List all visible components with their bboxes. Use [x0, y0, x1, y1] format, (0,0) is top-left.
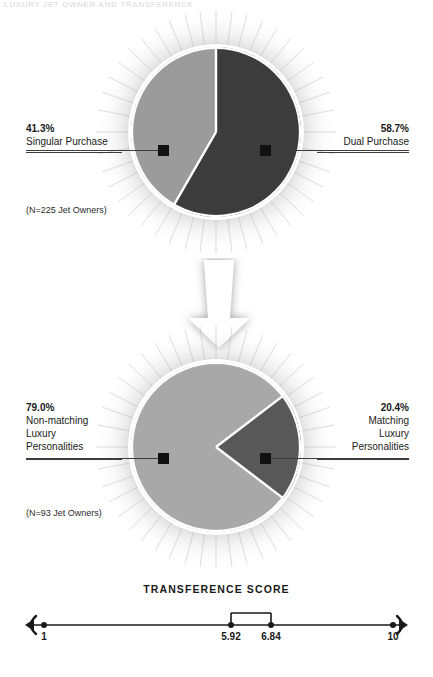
pie-2-left-label-line1: Non-matching [26, 414, 88, 427]
pie-1-left-underline [26, 152, 122, 153]
pie-2-right-underline [317, 459, 409, 460]
pie-1-right-percent: 58.7% [343, 122, 409, 135]
pie-1-right-underline [317, 152, 409, 153]
pie-2-slices [131, 362, 301, 532]
pie-1-callout-left: 41.3% Singular Purchase [26, 122, 108, 148]
pie-1-right-leader-line [270, 150, 409, 151]
pie-2-left-percent: 79.0% [26, 401, 88, 414]
pie-2-left-marker [158, 453, 169, 464]
arrow-shape [188, 260, 250, 348]
pie-2-graphic [131, 362, 301, 532]
scale-tick-high [268, 622, 274, 628]
pie-2-right-label-line1: Matching [352, 414, 409, 427]
scale-label-max: 10 [363, 631, 423, 642]
pie-2-left-label-line2: Luxury [26, 427, 88, 440]
pie-2-right-label-line3: Personalities [352, 440, 409, 453]
pie-1-left-marker [158, 145, 169, 156]
pie-2-right-marker [260, 453, 271, 464]
scale-right-arrow-tip-icon [399, 619, 408, 631]
pie-2-right-percent: 20.4% [352, 401, 409, 414]
pie-1-callout-right: 58.7% Dual Purchase [343, 122, 409, 148]
scale-range-bracket [231, 613, 271, 625]
scale-label-high: 6.84 [241, 631, 301, 642]
downward-transition-arrow [177, 258, 261, 350]
pie-1-right-marker [260, 145, 271, 156]
pie-1-left-leader-line [26, 150, 163, 151]
pie-2-right-label-line2: Luxury [352, 427, 409, 440]
pie-1-left-percent: 41.3% [26, 122, 108, 135]
pie-2-left-leader-line [26, 458, 163, 459]
pie-2-callout-right: 20.4% Matching Luxury Personalities [352, 401, 409, 453]
transference-score-scale: TRANSFERENCE SCORE 1 5.92 6.84 10 [0, 580, 433, 677]
pie-1-right-label: Dual Purchase [343, 135, 409, 148]
pie-chart-2-luxury-personality: 79.0% Non-matching Luxury Personalities … [0, 355, 433, 570]
pie-1-left-label: Singular Purchase [26, 135, 108, 148]
scale-left-arrow-tip-icon [25, 619, 34, 631]
pie-1-graphic [131, 47, 301, 217]
pie-2-left-underline [26, 459, 122, 460]
pie-1-sample-note: (N=225 Jet Owners) [26, 205, 107, 215]
cropped-header-text: LUXURY JET OWNER AND TRANSFERENCE [0, 0, 433, 9]
pie-chart-1-purchase-split: 41.3% Singular Purchase 58.7% Dual Purch… [0, 40, 433, 255]
scale-label-min: 1 [14, 631, 74, 642]
pie-2-callout-left: 79.0% Non-matching Luxury Personalities [26, 401, 88, 453]
scale-tick-low [228, 622, 234, 628]
pie-2-right-leader-line [270, 458, 409, 459]
pie-1-slices [131, 47, 301, 217]
scale-tick-max [390, 622, 396, 628]
pie-2-left-label-line3: Personalities [26, 440, 88, 453]
pie-2-sample-note: (N=93 Jet Owners) [26, 508, 102, 518]
scale-title: TRANSFERENCE SCORE [0, 583, 433, 595]
scale-tick-min [41, 622, 47, 628]
